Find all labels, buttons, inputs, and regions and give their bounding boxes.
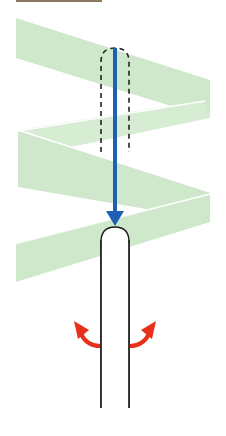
needle-fabric-diagram <box>0 0 226 436</box>
fold-line-4 <box>0 40 14 44</box>
rotation-arrow-right <box>130 334 149 346</box>
rotation-arrow-left <box>81 334 100 346</box>
rod-body <box>102 242 129 408</box>
top-strip <box>16 0 102 2</box>
